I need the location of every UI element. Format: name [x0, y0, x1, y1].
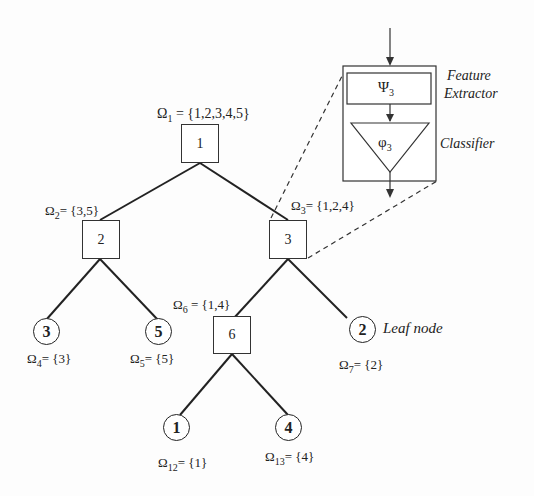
- tree-node-1: 1: [181, 124, 219, 163]
- decision-tree-diagram: Ψ3 φ3 Feature Extractor Classifier 1 2 3…: [0, 0, 534, 496]
- set-label-6: Ω6 = {1,4}: [173, 297, 230, 315]
- leaf-node-annotation: Leaf node: [383, 320, 443, 337]
- leaf-node-12: 1: [163, 414, 190, 441]
- set-label-5: Ω5= {5}: [130, 351, 174, 369]
- set-label-1: Ω1 = {1,2,3,4,5}: [157, 106, 250, 124]
- set-label-2: Ω2= {3,5}: [45, 203, 99, 221]
- leaf-node-13: 4: [275, 414, 302, 441]
- set-label-13: Ω13= {4}: [265, 449, 314, 467]
- set-label-4: Ω4= {3}: [27, 351, 71, 369]
- set-label-3: Ω3= {1,2,4}: [291, 198, 355, 216]
- tree-node-2: 2: [82, 220, 120, 259]
- extractor-label: Extractor: [444, 86, 498, 102]
- tree-node-3: 3: [269, 220, 307, 259]
- set-label-7: Ω7= {2}: [339, 357, 383, 375]
- feature-label: Feature: [447, 68, 491, 84]
- leaf-node-7: 2: [349, 316, 376, 343]
- feature-extractor-symbol: Ψ3: [378, 79, 394, 98]
- leaf-node-4: 3: [33, 318, 60, 345]
- classifier-label: Classifier: [440, 136, 494, 152]
- tree-node-6: 6: [213, 316, 251, 354]
- classifier-symbol: φ3: [378, 134, 392, 153]
- leaf-node-5: 5: [145, 318, 172, 345]
- set-label-12: Ω12= {1}: [158, 455, 207, 473]
